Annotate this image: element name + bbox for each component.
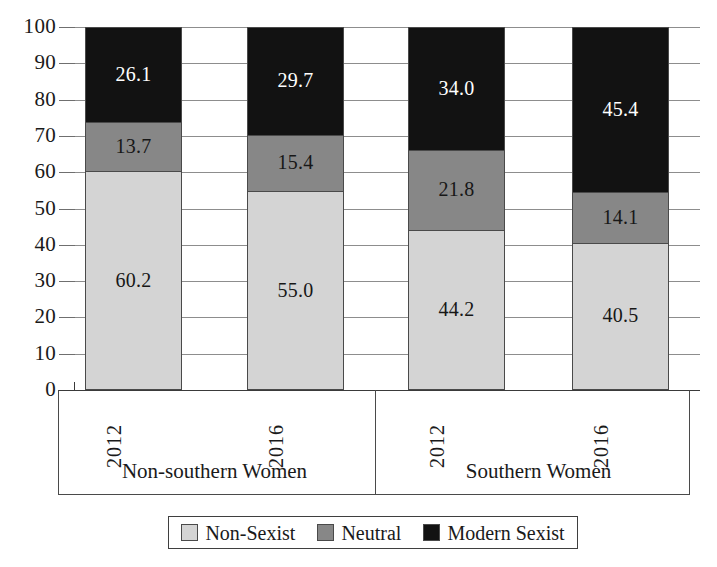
bar-segment: 15.4 bbox=[247, 135, 344, 191]
y-tick-label: 20 bbox=[4, 306, 56, 327]
legend-label: Modern Sexist bbox=[447, 523, 564, 543]
y-tick-mark bbox=[59, 317, 75, 318]
bar: 29.715.455.0 bbox=[247, 27, 344, 390]
legend-item[interactable]: Neutral bbox=[317, 523, 401, 543]
bar-segment: 29.7 bbox=[247, 27, 344, 135]
y-tick-label: 50 bbox=[4, 198, 56, 219]
bar: 34.021.844.2 bbox=[408, 27, 505, 390]
legend: Non-SexistNeutralModern Sexist bbox=[168, 516, 578, 549]
y-tick-label: 10 bbox=[4, 343, 56, 364]
bar-segment-value: 55.0 bbox=[278, 280, 314, 300]
stacked-bar-chart: 1009080706050403020100 26.113.760.229.71… bbox=[0, 0, 717, 567]
legend-label: Neutral bbox=[341, 523, 401, 543]
y-tick-mark bbox=[59, 27, 75, 28]
plot-area: 26.113.760.229.715.455.034.021.844.245.4… bbox=[75, 27, 700, 390]
y-tick-label: 70 bbox=[4, 125, 56, 146]
bar-segment: 60.2 bbox=[85, 171, 182, 390]
y-tick-mark bbox=[59, 63, 75, 64]
y-tick-mark bbox=[59, 100, 75, 101]
bar-segment: 45.4 bbox=[572, 27, 669, 192]
bar-segment-value: 29.7 bbox=[278, 70, 314, 90]
bar-segment-value: 40.5 bbox=[603, 305, 639, 325]
y-tick-label: 100 bbox=[4, 16, 56, 37]
y-tick-mark bbox=[59, 281, 75, 282]
legend-swatch-icon bbox=[423, 524, 440, 541]
bar-segment: 14.1 bbox=[572, 192, 669, 243]
y-tick-label: 30 bbox=[4, 270, 56, 291]
bar-segment-value: 45.4 bbox=[603, 99, 639, 119]
y-tick-mark bbox=[59, 136, 75, 137]
y-tick-mark bbox=[59, 209, 75, 210]
legend-item[interactable]: Non-Sexist bbox=[181, 523, 295, 543]
bar: 45.414.140.5 bbox=[572, 27, 669, 390]
legend-label: Non-Sexist bbox=[205, 523, 295, 543]
legend-swatch-icon bbox=[181, 524, 198, 541]
bar-segment-value: 60.2 bbox=[116, 270, 152, 290]
bar-segment: 34.0 bbox=[408, 27, 505, 150]
y-tick-mark bbox=[59, 245, 75, 246]
y-tick-label: 90 bbox=[4, 52, 56, 73]
y-tick-mark bbox=[59, 172, 75, 173]
bar-segment: 21.8 bbox=[408, 150, 505, 229]
bar-segment: 55.0 bbox=[247, 191, 344, 391]
bar-segment-value: 44.2 bbox=[439, 299, 475, 319]
y-tick-label: 40 bbox=[4, 234, 56, 255]
group-label: Non-southern Women bbox=[85, 460, 345, 482]
bar-segment-value: 15.4 bbox=[278, 152, 314, 172]
y-tick-label: 60 bbox=[4, 161, 56, 182]
bar-segment-value: 34.0 bbox=[439, 78, 475, 98]
group-label: Southern Women bbox=[409, 460, 669, 482]
legend-swatch-icon bbox=[317, 524, 334, 541]
y-axis: 1009080706050403020100 bbox=[0, 0, 56, 567]
y-tick-mark bbox=[59, 354, 75, 355]
bar: 26.113.760.2 bbox=[85, 27, 182, 390]
legend-item[interactable]: Modern Sexist bbox=[423, 523, 564, 543]
bar-segment: 26.1 bbox=[85, 27, 182, 122]
bar-segment: 44.2 bbox=[408, 230, 505, 390]
bar-segment-value: 26.1 bbox=[116, 64, 152, 84]
bar-segment: 13.7 bbox=[85, 122, 182, 172]
y-tick-label: 80 bbox=[4, 89, 56, 110]
y-tick-label: 0 bbox=[4, 379, 56, 400]
bar-segment-value: 13.7 bbox=[116, 136, 152, 156]
bar-segment: 40.5 bbox=[572, 243, 669, 390]
group-divider bbox=[375, 390, 376, 495]
bar-segment-value: 14.1 bbox=[603, 207, 639, 227]
bar-segment-value: 21.8 bbox=[439, 179, 475, 199]
